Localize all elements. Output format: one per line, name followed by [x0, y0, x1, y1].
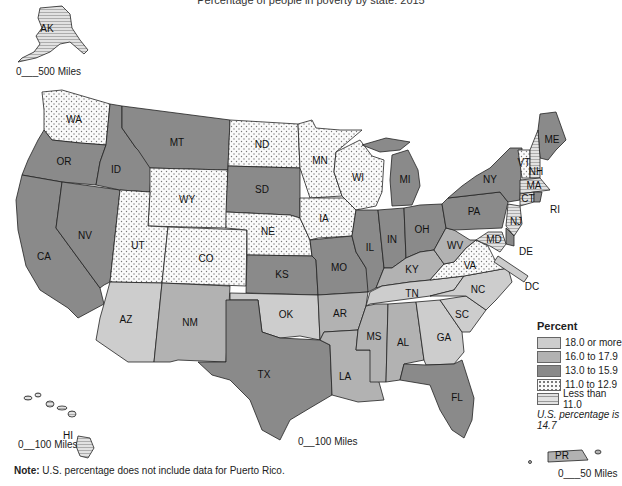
legend-item: 13.0 to 15.9 — [537, 364, 622, 377]
state-miu — [362, 138, 410, 152]
legend-swatch — [537, 351, 561, 363]
state-label: DE — [519, 246, 533, 257]
state-label: NY — [483, 174, 497, 185]
state-ak — [18, 6, 88, 62]
state-fl — [400, 360, 474, 438]
state-label: TX — [258, 369, 271, 380]
state-label: TN — [405, 288, 418, 299]
state-label: OH — [415, 224, 430, 235]
state-label: WA — [66, 114, 82, 125]
state-label: IL — [366, 242, 375, 253]
state-label: LA — [339, 371, 352, 382]
legend-label: 16.0 to 17.9 — [565, 351, 618, 362]
legend-label: 18.0 or more — [565, 337, 622, 348]
state-label: MI — [399, 174, 410, 185]
state-hi — [76, 436, 94, 458]
state-label: NC — [471, 284, 485, 295]
puerto-rico-scale: 0___50 Miles — [558, 468, 617, 479]
state-label: WV — [447, 240, 463, 251]
state-label: MD — [486, 234, 502, 245]
legend-label: Less than 11.0 — [563, 388, 622, 410]
legend: Percent 18.0 or more 16.0 to 17.9 13.0 t… — [537, 320, 622, 431]
state-label: WY — [179, 194, 195, 205]
state-label: AR — [333, 308, 347, 319]
hawaii-scale: 0__100 Miles — [18, 439, 77, 450]
state-label: RI — [550, 204, 560, 215]
state-label: MO — [331, 262, 347, 273]
state-label: NH — [529, 166, 543, 177]
legend-item: 18.0 or more — [537, 336, 622, 349]
legend-title: Percent — [537, 320, 622, 332]
state-label: NE — [261, 226, 275, 237]
state-label: SC — [455, 309, 469, 320]
legend-swatch — [537, 365, 561, 377]
state-label: ME — [545, 134, 560, 145]
state-label: AK — [40, 23, 54, 34]
state-label: CT — [521, 193, 534, 204]
state-label: AL — [397, 337, 410, 348]
legend-swatch — [537, 379, 561, 391]
state-label: ID — [111, 164, 121, 175]
mainland-scale: 0__100 Miles — [298, 436, 357, 447]
states-layer: AKWAORCANVIDMTWYUTCOAZNMNDSDNEKSOKTXMNIA… — [16, 6, 588, 462]
state-label: AZ — [120, 314, 133, 325]
footnote: Note: U.S. percentage does not include d… — [14, 465, 285, 476]
state-label: OK — [279, 309, 294, 320]
state-label: NV — [78, 230, 92, 241]
legend-item: 16.0 to 17.9 — [537, 350, 622, 363]
alaska-scale: 0___500 Miles — [16, 66, 81, 77]
state-label: FL — [451, 392, 463, 403]
state-label: SD — [255, 184, 269, 195]
state-label: PR — [555, 450, 569, 461]
state-label: MS — [367, 331, 382, 342]
state-ri — [534, 192, 542, 202]
legend-swatch — [537, 337, 561, 349]
state-label: VA — [464, 260, 477, 271]
state-label: CO — [199, 253, 214, 264]
state-label: GA — [437, 332, 452, 343]
state-label: IN — [387, 234, 397, 245]
state-label: UT — [131, 240, 144, 251]
hawaii-islands — [24, 393, 76, 417]
state-label: MN — [312, 155, 328, 166]
state-label: OR — [57, 156, 72, 167]
us-percentage-note: U.S. percentage is 14.7 — [537, 409, 622, 431]
state-label: IA — [319, 213, 329, 224]
footnote-prefix: Note: — [14, 465, 40, 476]
state-label: NJ — [510, 216, 522, 227]
state-label: KY — [405, 264, 419, 275]
state-label: KS — [275, 269, 289, 280]
state-label: NM — [182, 317, 198, 328]
legend-item: Less than 11.0 — [537, 392, 622, 405]
us-poverty-map: AKWAORCANVIDMTWYUTCOAZNMNDSDNEKSOKTXMNIA… — [0, 0, 622, 486]
state-label: MT — [170, 137, 184, 148]
state-label: CA — [37, 251, 51, 262]
legend-label: 13.0 to 15.9 — [565, 365, 618, 376]
state-label: ND — [255, 139, 269, 150]
legend-swatch — [537, 393, 559, 405]
footnote-text: U.S. percentage does not include data fo… — [40, 465, 285, 476]
state-label: WI — [352, 172, 364, 183]
state-label: MA — [527, 180, 542, 191]
state-label: PA — [468, 206, 481, 217]
state-label: DC — [525, 281, 539, 292]
